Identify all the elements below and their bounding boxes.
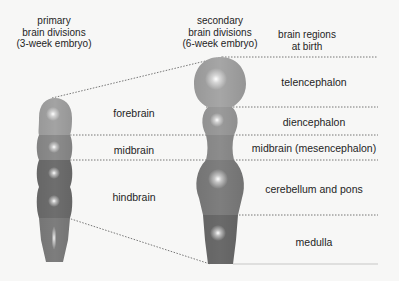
label-medulla: medulla bbox=[250, 236, 378, 248]
primary-header: primary brain divisions (3-week embryo) bbox=[12, 15, 96, 50]
label-forebrain: forebrain bbox=[100, 107, 168, 119]
regions-header: brain regions at birth bbox=[272, 29, 342, 52]
label-midbrain: midbrain bbox=[100, 144, 168, 156]
label-hindbrain: hindbrain bbox=[100, 191, 168, 203]
label-diencephalon: diencephalon bbox=[250, 116, 378, 128]
connector-bottom bbox=[68, 218, 210, 264]
label-telencephalon: telencephalon bbox=[250, 76, 378, 88]
primary-embryo bbox=[30, 95, 80, 270]
label-midbrain-mesencephalon: midbrain (mesencephalon) bbox=[250, 142, 378, 154]
secondary-header: secondary brain divisions (6-week embryo… bbox=[177, 15, 263, 50]
secondary-embryo bbox=[190, 55, 250, 267]
label-cerebellum-pons: cerebellum and pons bbox=[250, 183, 378, 195]
